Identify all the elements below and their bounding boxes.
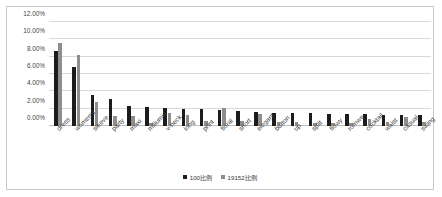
bar-group	[413, 22, 431, 126]
bars-layer	[49, 22, 431, 126]
bar	[54, 51, 58, 126]
bar	[58, 43, 62, 126]
bar-group	[395, 22, 413, 126]
bar	[72, 67, 76, 126]
legend-label: 100比例	[190, 173, 212, 182]
bar-group	[140, 22, 158, 126]
chart-screenshot: 0.00%2.00%4.00%6.00%8.00%10.00%12.00% dr…	[0, 0, 442, 197]
y-axis-tick-label: 8.00%	[27, 45, 45, 53]
y-axis-tick-label: 0.00%	[27, 114, 45, 122]
bar-group	[67, 22, 85, 126]
bar-group	[49, 22, 67, 126]
x-axis: dresswomen'ssleevepartymaximiliumiav-nec…	[49, 127, 431, 167]
bar-group	[176, 22, 194, 126]
bar-group	[122, 22, 140, 126]
bar	[127, 106, 131, 126]
bar-group	[249, 22, 267, 126]
bar-group	[285, 22, 303, 126]
legend-item[interactable]: 19152比例	[221, 173, 257, 182]
y-axis-tick-label: 6.00%	[27, 62, 45, 70]
y-axis-tick-label: 2.00%	[27, 97, 45, 105]
bar-group	[322, 22, 340, 126]
bar-group	[340, 22, 358, 126]
bar-group	[195, 22, 213, 126]
bar-group	[213, 22, 231, 126]
y-axis-tick-label: 10.00%	[23, 27, 45, 35]
legend-swatch-icon	[221, 175, 225, 179]
bar-group	[231, 22, 249, 126]
bar	[77, 55, 81, 126]
bar-group	[358, 22, 376, 126]
y-axis-tick-label: 12.00%	[23, 10, 45, 18]
legend-item[interactable]: 100比例	[183, 173, 212, 182]
legend-swatch-icon	[183, 175, 187, 179]
plot-area	[49, 22, 431, 126]
legend-label: 19152比例	[228, 173, 257, 182]
chart-frame: 0.00%2.00%4.00%6.00%8.00%10.00%12.00% dr…	[6, 6, 434, 190]
y-axis: 0.00%2.00%4.00%6.00%8.00%10.00%12.00%	[11, 17, 47, 131]
bar	[109, 99, 113, 126]
bar-group	[304, 22, 322, 126]
y-axis-tick-label: 4.00%	[27, 79, 45, 87]
chart-legend: 100比例19152比例	[7, 171, 433, 183]
bar-group	[104, 22, 122, 126]
